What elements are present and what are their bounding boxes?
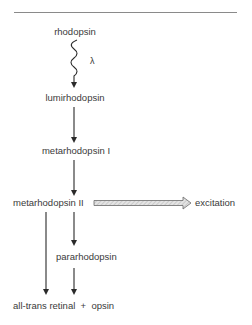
node-metarhodopsin-1: metarhodopsin I	[42, 145, 110, 156]
arrow-meta2-to-products	[43, 212, 49, 295]
node-lumirhodopsin: lumirhodopsin	[45, 92, 104, 103]
arrow-meta2-to-para	[71, 212, 77, 246]
arrow-lumi-to-meta1	[71, 107, 77, 143]
node-rhodopsin: rhodopsin	[54, 26, 96, 37]
light-lambda-label: λ	[90, 56, 95, 67]
node-pararhodopsin: pararhodopsin	[56, 251, 117, 262]
wavy-light-arrow	[71, 40, 77, 88]
excitation-arrow	[94, 197, 191, 209]
arrow-para-to-products	[71, 268, 77, 295]
arrow-meta1-to-meta2	[71, 160, 77, 196]
node-products: all-trans retinal + opsin	[13, 300, 114, 311]
node-metarhodopsin-2: metarhodopsin II	[13, 197, 84, 208]
node-excitation: excitation	[195, 197, 235, 208]
pathway-arrows	[0, 0, 252, 325]
